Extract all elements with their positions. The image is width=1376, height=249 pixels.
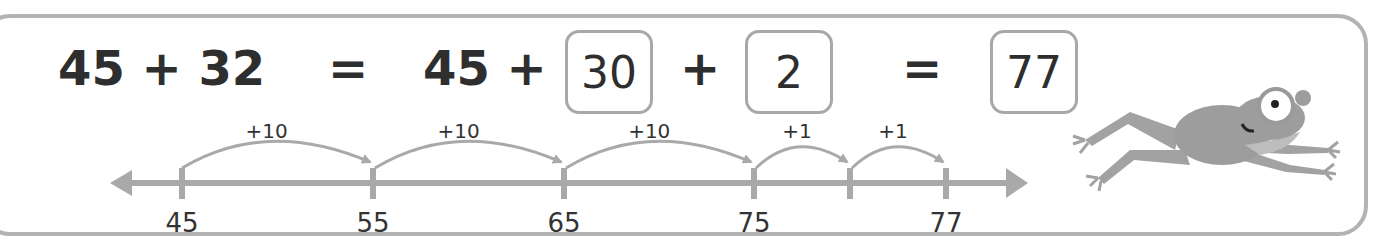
frog-illustration [0, 0, 1376, 249]
